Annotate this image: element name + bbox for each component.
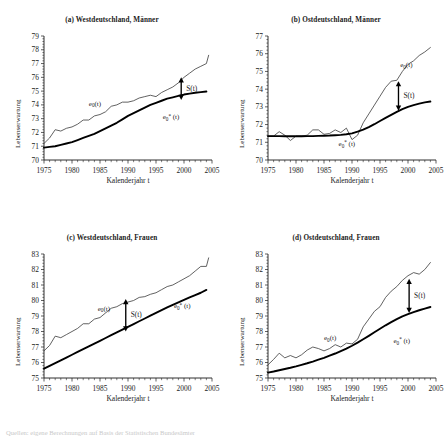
svg-text:77: 77 (32, 343, 40, 352)
svg-text:83: 83 (256, 250, 264, 259)
curve-label-observed: e0(t) (98, 305, 111, 314)
series-e0(t) (44, 55, 209, 143)
svg-text:73: 73 (256, 102, 264, 111)
svg-text:76: 76 (256, 49, 264, 58)
svg-text:1995: 1995 (373, 384, 388, 393)
curve-label-observed: e0(t) (89, 100, 102, 109)
svg-text:1990: 1990 (345, 384, 360, 393)
panel-c-title: (c) Westdeutschland, Frauen (0, 234, 224, 242)
svg-text:78: 78 (32, 45, 40, 54)
svg-text:72: 72 (32, 128, 40, 137)
panel-a-plot: 7071727374757677787919751980198519901995… (0, 28, 224, 218)
svg-text:82: 82 (256, 265, 264, 274)
curve-label-observed: e0(t) (400, 61, 413, 70)
svg-text:80: 80 (256, 296, 264, 305)
svg-text:79: 79 (32, 312, 40, 321)
svg-text:78: 78 (256, 327, 264, 336)
x-axis-label: Kalenderjahr t (268, 176, 436, 185)
figure-panel-grid: (a) Westdeutschland, Männer 707172737475… (0, 0, 448, 437)
svg-text:81: 81 (256, 281, 264, 290)
svg-text:2000: 2000 (401, 384, 416, 393)
svg-text:76: 76 (32, 73, 40, 82)
svg-text:74: 74 (32, 100, 40, 109)
x-axis-label: Kalenderjahr t (44, 176, 212, 185)
svg-text:77: 77 (256, 343, 264, 352)
svg-text:1995: 1995 (373, 166, 388, 175)
svg-text:1975: 1975 (37, 384, 52, 393)
curve-label-fitted: e0* (t) (174, 302, 191, 311)
x-axis-label: Kalenderjahr t (268, 394, 436, 403)
svg-text:73: 73 (32, 114, 40, 123)
svg-text:70: 70 (256, 156, 264, 165)
panel-d: (d) Ostdeutschland, Frauen 7576777879808… (224, 218, 448, 437)
gap-label: S(t) (403, 91, 415, 100)
svg-text:1975: 1975 (37, 166, 52, 175)
y-axis-label: Lebenserwartung (238, 317, 246, 366)
svg-text:1980: 1980 (289, 166, 304, 175)
svg-text:71: 71 (32, 142, 40, 151)
svg-text:79: 79 (256, 312, 264, 321)
curve-label-fitted: e0* (t) (163, 113, 180, 122)
svg-text:70: 70 (32, 156, 40, 165)
panel-c: (c) Westdeutschland, Frauen 757677787980… (0, 218, 224, 437)
panel-b: (b) Ostdeutschland, Männer 7071727374757… (224, 0, 448, 218)
svg-text:71: 71 (256, 138, 264, 147)
svg-text:75: 75 (256, 374, 264, 383)
svg-text:2000: 2000 (177, 166, 192, 175)
gap-label: S(t) (131, 310, 143, 319)
svg-text:1985: 1985 (317, 384, 332, 393)
svg-text:83: 83 (32, 250, 40, 259)
panel-a-title: (a) Westdeutschland, Männer (0, 16, 224, 24)
svg-text:82: 82 (32, 265, 40, 274)
svg-text:75: 75 (32, 87, 40, 96)
gap-arrow-head-top (396, 81, 401, 86)
svg-text:74: 74 (256, 85, 264, 94)
series-e0(t) (268, 263, 430, 365)
svg-text:2005: 2005 (429, 384, 444, 393)
svg-text:1990: 1990 (345, 166, 360, 175)
panel-d-title: (d) Ostdeutschland, Frauen (224, 234, 448, 242)
y-axis-label: Lebenserwartung (14, 317, 22, 366)
svg-text:1985: 1985 (93, 384, 108, 393)
svg-text:1980: 1980 (65, 166, 80, 175)
svg-text:1975: 1975 (261, 384, 276, 393)
x-axis-label: Kalenderjahr t (44, 394, 212, 403)
series-e0*(t) (44, 92, 206, 148)
y-axis-label: Lebenserwartung (14, 99, 22, 148)
svg-text:77: 77 (256, 32, 264, 41)
svg-text:75: 75 (32, 374, 40, 383)
svg-text:81: 81 (32, 281, 40, 290)
svg-text:77: 77 (32, 59, 40, 68)
svg-text:72: 72 (256, 120, 264, 129)
svg-text:1980: 1980 (65, 384, 80, 393)
svg-text:1985: 1985 (93, 166, 108, 175)
y-axis-label: Lebenserwartung (238, 99, 246, 148)
panel-d-plot: 7576777879808182831975198019851990199520… (224, 246, 448, 436)
gap-arrow-head-bottom (179, 95, 184, 100)
gap-arrow-head-top (123, 299, 128, 304)
svg-text:2000: 2000 (401, 166, 416, 175)
svg-text:1985: 1985 (317, 166, 332, 175)
svg-text:1980: 1980 (289, 384, 304, 393)
svg-text:2000: 2000 (177, 384, 192, 393)
panel-b-title: (b) Ostdeutschland, Männer (224, 16, 448, 24)
svg-text:75: 75 (256, 67, 264, 76)
svg-text:1975: 1975 (261, 166, 276, 175)
panel-a: (a) Westdeutschland, Männer 707172737475… (0, 0, 224, 218)
svg-text:2005: 2005 (429, 166, 444, 175)
svg-text:1995: 1995 (149, 166, 164, 175)
svg-text:1990: 1990 (121, 384, 136, 393)
svg-text:1995: 1995 (149, 384, 164, 393)
curve-label-observed: e0(t) (324, 334, 337, 343)
svg-text:2005: 2005 (205, 384, 220, 393)
gap-label: S(t) (186, 84, 198, 93)
svg-text:2005: 2005 (205, 166, 220, 175)
svg-text:76: 76 (256, 358, 264, 367)
gap-label: S(t) (414, 291, 426, 300)
svg-text:76: 76 (32, 358, 40, 367)
svg-text:79: 79 (32, 32, 40, 41)
svg-text:1990: 1990 (121, 166, 136, 175)
gap-arrow-head-top (406, 279, 411, 284)
svg-text:80: 80 (32, 296, 40, 305)
curve-label-fitted: e0* (t) (339, 139, 356, 148)
